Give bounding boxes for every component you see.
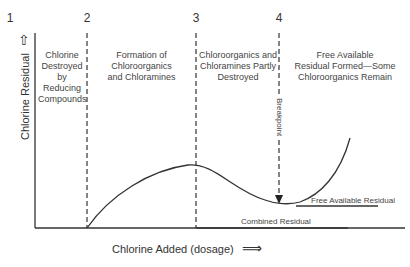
x-axis-label: Chlorine Added (dosage) ⟹ — [112, 240, 262, 256]
zone-label-1-line: Destroyed — [38, 61, 86, 72]
zone-label-4-line: Residual Formed—Some — [283, 61, 407, 72]
zone-label-2: Formation of Chloroorganics and Chlorami… — [88, 50, 195, 83]
y-axis-label-text: Chlorine Residual — [19, 53, 31, 140]
zone-label-1-line: Reducing — [38, 83, 86, 94]
zone-number-4: 4 — [276, 11, 283, 25]
free-residual-label: Free Available Residual — [311, 196, 395, 205]
zone-number-3: 3 — [193, 11, 200, 25]
arrow-right-icon: ⟹ — [242, 240, 262, 256]
x-axis-label-text: Chlorine Added (dosage) — [112, 243, 234, 255]
zone-label-4: Free Available Residual Formed—Some Chlo… — [283, 50, 407, 83]
chlorine-residual-curve — [87, 138, 350, 228]
diagram-canvas — [0, 0, 410, 267]
zone-label-1: Chlorine Destroyed by Reducing Compounds — [38, 50, 86, 105]
zone-label-4-line: Free Available — [283, 50, 407, 61]
zone-label-1-line: by — [38, 72, 86, 83]
combined-residual-label: Combined Residual — [241, 217, 311, 226]
zone-label-1-line: Compounds — [38, 94, 86, 105]
y-axis-label: Chlorine Residual ⇧ — [16, 34, 32, 140]
zone-label-3: Chloroorganics and Chloramines Partly De… — [198, 50, 278, 83]
zone-label-2-line: and Chloramines — [88, 72, 195, 83]
zone-label-1-line: Chlorine — [38, 50, 86, 61]
zone-label-2-line: Formation of Chloroorganics — [88, 50, 195, 72]
breakpoint-label: Breakpoint — [275, 98, 284, 136]
zone-number-2: 2 — [84, 11, 91, 25]
arrow-up-icon: ⇧ — [18, 32, 30, 48]
zone-label-3-line: Chloramines Partly — [198, 61, 278, 72]
zone-label-4-line: Chloroorganics Remain — [283, 72, 407, 83]
zone-number-1: 1 — [7, 11, 14, 25]
zone-label-3-line: Destroyed — [198, 72, 278, 83]
zone-label-3-line: Chloroorganics and — [198, 50, 278, 61]
